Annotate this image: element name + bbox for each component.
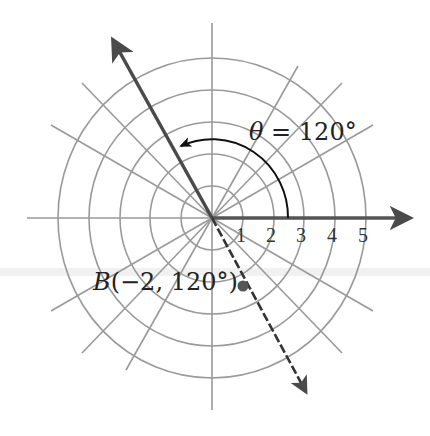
polar-grid-svg	[0, 0, 430, 436]
polar-diagram: 1 2 3 4 5 θ = 120° B(−2, 120°)	[0, 0, 430, 436]
point-b-label: B(−2, 120°)	[93, 268, 238, 296]
equals-sign: =	[271, 118, 291, 146]
point-b	[238, 281, 249, 292]
tick-label-2: 2	[266, 224, 276, 247]
point-coords: (−2, 120°)	[111, 268, 238, 296]
opposite-ray-dashed	[212, 218, 306, 392]
tick-label-5: 5	[358, 224, 368, 247]
angle-value: 120°	[299, 118, 357, 146]
tick-label-4: 4	[327, 224, 337, 247]
tick-label-3: 3	[296, 224, 306, 247]
angle-label: θ = 120°	[249, 118, 357, 146]
theta-symbol: θ	[249, 118, 263, 146]
point-name: B	[93, 268, 111, 296]
tick-label-1: 1	[236, 224, 246, 247]
